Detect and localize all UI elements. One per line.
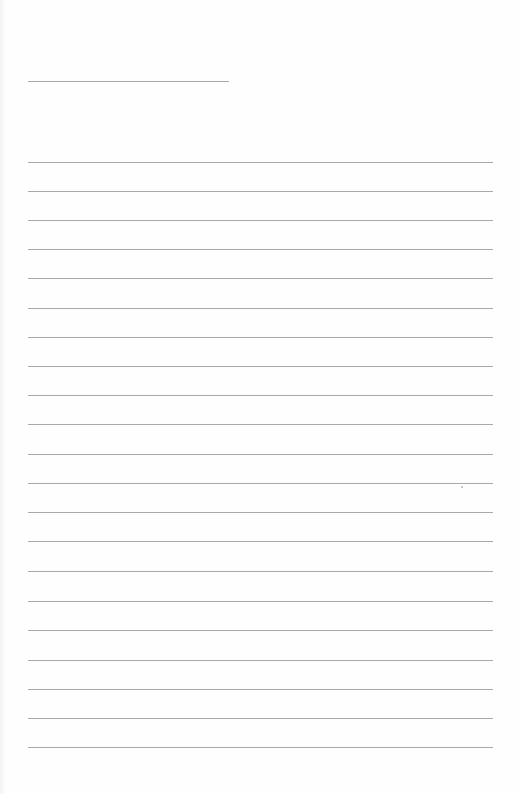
ruled-line <box>28 454 493 455</box>
ruled-line <box>28 512 493 513</box>
header-name-line <box>28 81 229 82</box>
page-edge-shadow <box>0 0 6 794</box>
paper-speck <box>461 486 463 488</box>
ruled-line <box>28 249 493 250</box>
ruled-line <box>28 191 493 192</box>
ruled-line <box>28 601 493 602</box>
ruled-line <box>28 308 493 309</box>
ruled-line <box>28 541 493 542</box>
ruled-line <box>28 337 493 338</box>
ruled-line <box>28 571 493 572</box>
ruled-line <box>28 278 493 279</box>
ruled-line <box>28 718 493 719</box>
ruled-line <box>28 395 493 396</box>
ruled-line <box>28 630 493 631</box>
ruled-line <box>28 660 493 661</box>
ruled-line <box>28 366 493 367</box>
lined-paper-page <box>0 0 521 794</box>
ruled-line <box>28 747 493 748</box>
ruled-line <box>28 220 493 221</box>
ruled-line <box>28 483 493 484</box>
ruled-line <box>28 424 493 425</box>
ruled-line <box>28 689 493 690</box>
ruled-line <box>28 162 493 163</box>
